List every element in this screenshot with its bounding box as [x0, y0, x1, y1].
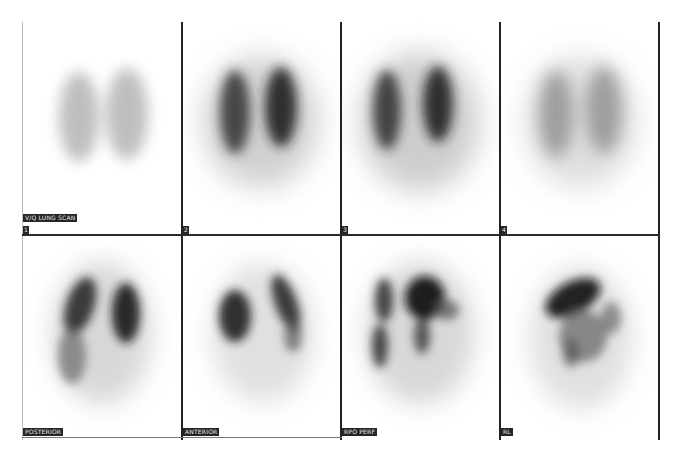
scan-panel-anterior [183, 238, 340, 438]
lung-perfusion-image-posterior [24, 238, 181, 438]
grid-divider [22, 234, 660, 236]
panel-number-label: 4 [501, 226, 507, 234]
lung-perfusion-image-3 [342, 22, 499, 234]
panel-number-label: 2 [183, 226, 189, 234]
grid-divider [658, 22, 660, 440]
panel-number-label: 1 [23, 226, 29, 234]
view-label-anterior: ANTERIOR [183, 428, 219, 436]
view-label-rl: RL [501, 428, 513, 436]
scan-panel-4 [501, 22, 658, 234]
scan-panel-2 [183, 22, 340, 234]
lung-perfusion-image-2 [183, 22, 340, 234]
scan-panel-posterior [24, 238, 181, 438]
scan-panel-3 [342, 22, 499, 234]
lung-perfusion-image-4 [501, 22, 658, 234]
grid-divider [22, 437, 342, 438]
view-label-posterior: POSTERIOR [23, 428, 63, 436]
scan-title-label: V/Q LUNG SCAN [23, 214, 77, 222]
lung-perfusion-image-rpo [342, 238, 499, 438]
panel-number-label: 3 [342, 226, 348, 234]
view-label-rpo: RPO PERF [342, 428, 377, 436]
lung-perfusion-image-1 [24, 22, 181, 234]
scan-panel-rl [501, 238, 658, 438]
scan-image-grid: V/Q LUNG SCAN 1 2 3 4 POSTERIOR ANTERIOR… [0, 0, 674, 453]
lung-perfusion-image-rl [501, 238, 658, 438]
lung-perfusion-image-anterior [183, 238, 340, 438]
scan-panel-rpo [342, 238, 499, 438]
scan-panel-1 [24, 22, 181, 234]
